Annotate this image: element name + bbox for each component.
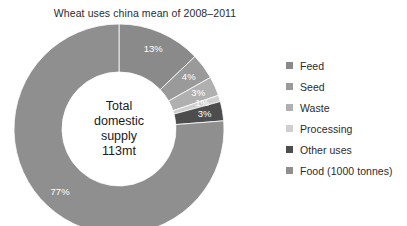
legend-item[interactable]: Food (1000 tonnes): [286, 160, 406, 181]
slice-value-label: 3%: [198, 108, 212, 119]
legend-item-label: Seed: [300, 81, 325, 93]
legend-swatch-icon: [286, 104, 293, 111]
legend-item[interactable]: Waste: [286, 97, 406, 118]
donut-svg: 13%4%3%1%3%77%: [13, 23, 225, 226]
legend-swatch-icon: [286, 125, 293, 132]
legend-item-label: Processing: [300, 123, 352, 135]
legend-item-label: Other uses: [300, 144, 352, 156]
slice-value-label: 77%: [51, 186, 71, 197]
legend-item[interactable]: Feed: [286, 55, 406, 76]
donut-slices: [14, 24, 224, 226]
slice-value-label: 4%: [182, 71, 196, 82]
legend-item-label: Food (1000 tonnes): [300, 165, 393, 177]
legend-swatch-icon: [286, 146, 293, 153]
legend-item-label: Waste: [300, 102, 330, 114]
legend-item-label: Feed: [300, 60, 324, 72]
legend-item[interactable]: Seed: [286, 76, 406, 97]
legend-swatch-icon: [286, 83, 293, 90]
legend-item[interactable]: Processing: [286, 118, 406, 139]
slice-value-label: 13%: [144, 43, 164, 54]
slice-value-label: 1%: [195, 97, 209, 108]
chart-page: Wheat uses china mean of 2008–2011 13%4%…: [0, 0, 407, 226]
legend-swatch-icon: [286, 167, 293, 174]
chart-legend: FeedSeedWasteProcessingOther usesFood (1…: [286, 55, 406, 181]
chart-title: Wheat uses china mean of 2008–2011: [0, 7, 290, 19]
legend-swatch-icon: [286, 62, 293, 69]
legend-item[interactable]: Other uses: [286, 139, 406, 160]
donut-chart: 13%4%3%1%3%77% Total domestic supply 113…: [13, 23, 225, 226]
